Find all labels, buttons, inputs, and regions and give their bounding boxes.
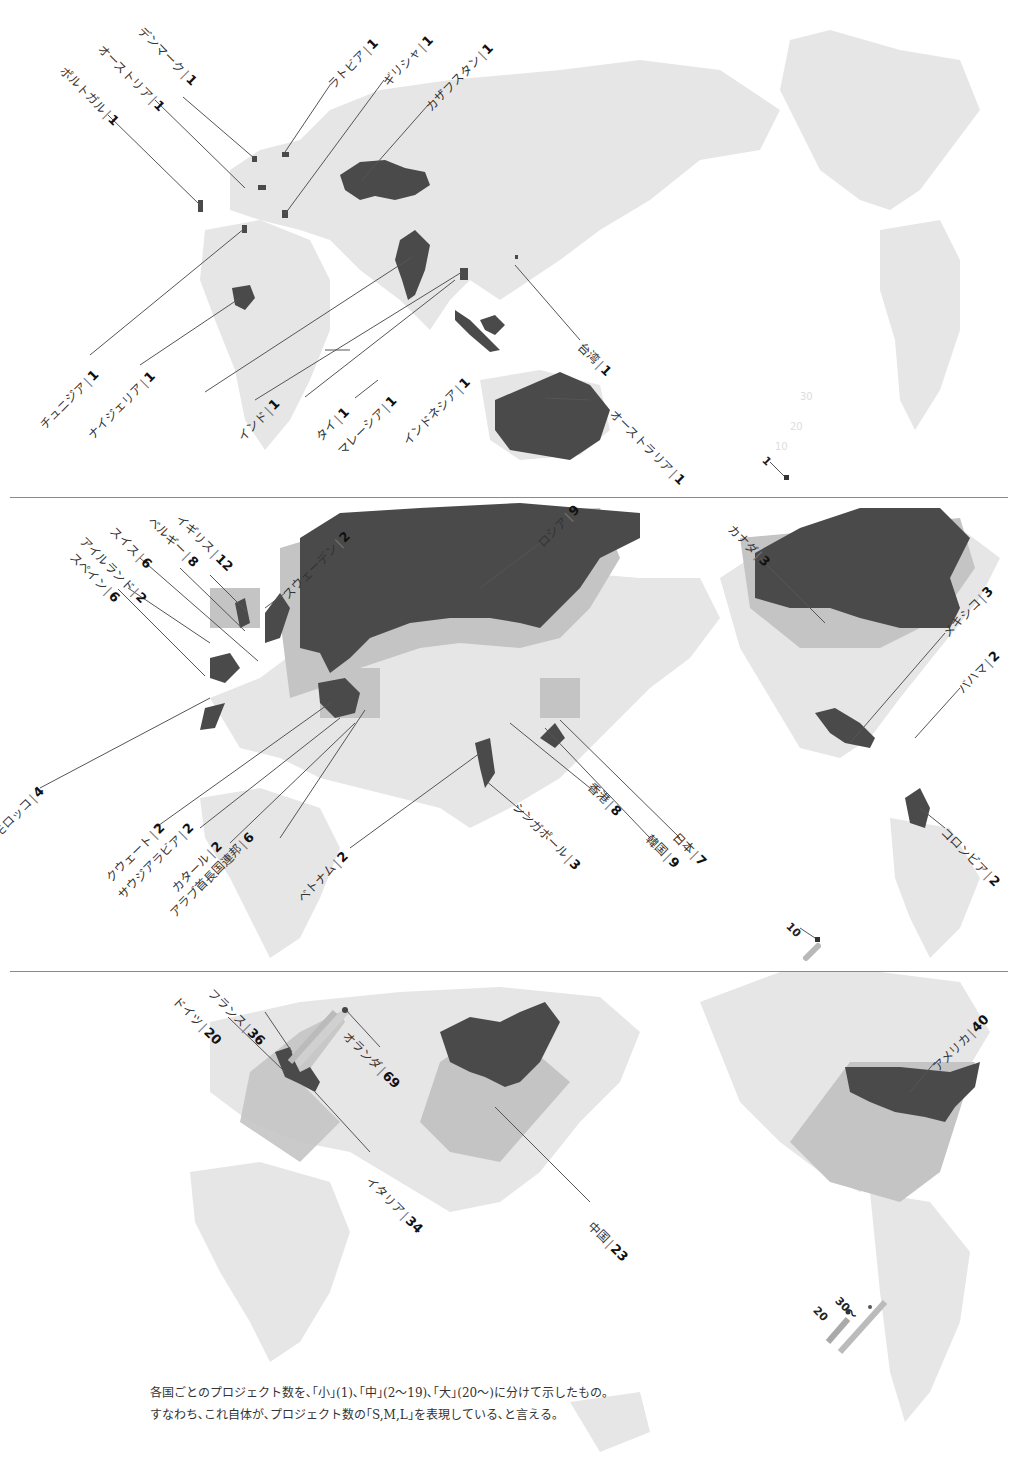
panel-medium: イギリス|12 ベルギー|8 スイス|6 アイルランド|2 スペイン|6 スウェ… (0, 498, 1036, 971)
indonesia-shape (455, 310, 505, 352)
world-map-small: 302010 (0, 0, 1036, 497)
world-map-medium (0, 498, 1036, 971)
caption: 各国ごとのプロジェクト数を､｢小｣(1)､｢中｣(2〜19)､｢大｣(20〜)に… (150, 1382, 608, 1426)
panel-small: 302010 デンマーク|1 オーストリア|1 ポルトガル|1 ラトビア|1 ギ… (0, 0, 1036, 497)
spain-shape (210, 653, 240, 683)
svg-text:10: 10 (775, 441, 788, 452)
caption-line-2: すなわち､これ自体が､プロジェクト数の｢S,M,L｣を表現している､と言える｡ (150, 1404, 608, 1426)
svg-text:30: 30 (800, 391, 813, 402)
caption-line-1: 各国ごとのプロジェクト数を､｢小｣(1)､｢中｣(2〜19)､｢大｣(20〜)に… (150, 1382, 608, 1404)
svg-text:20: 20 (790, 421, 803, 432)
